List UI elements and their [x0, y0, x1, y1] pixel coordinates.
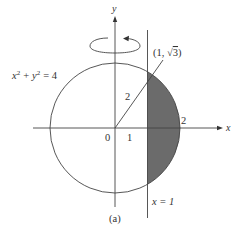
radius-label: 2 [125, 91, 130, 102]
tick-label-1: 1 [127, 132, 132, 143]
figure-caption: (a) [109, 213, 121, 225]
x-axis-arrow-icon [217, 126, 223, 130]
point-label: (1, √3) [153, 47, 182, 59]
y-axis-label: y [111, 3, 117, 14]
y-axis-arrow-icon [113, 16, 117, 22]
solid-of-revolution-diagram: y x x2+y2= 4 (1, √3) 2 0 1 2 x = 1 (a) [0, 0, 243, 238]
tick-label-2: 2 [181, 115, 186, 126]
origin-label: 0 [105, 132, 110, 143]
circle-equation: x2+y2= 4 [11, 69, 58, 81]
x-axis-label: x [225, 122, 231, 133]
line-label: x = 1 [151, 196, 174, 207]
